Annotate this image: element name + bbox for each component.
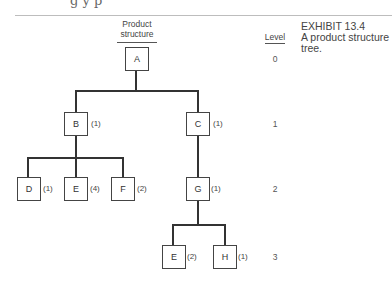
connector-to-e2 [172,224,174,245]
node-g: G [186,177,210,201]
connector-g-horizontal [172,224,226,226]
node-e-level3: E [162,245,186,269]
exhibit-caption-line2: tree. [301,43,322,54]
node-a: A [125,47,149,71]
connector-to-d [27,157,29,177]
connector-g-stem [197,201,199,225]
connector-to-b [75,90,77,112]
node-c-quantity: (1) [213,119,223,129]
connector-to-c [197,90,199,112]
connector-a-horizontal [75,90,199,92]
node-e-level3-quantity: (2) [187,252,197,262]
top-rule-divider [15,15,392,16]
node-e-level2-quantity: (4) [90,184,100,194]
connector-to-f [122,157,124,177]
node-f: F [111,177,135,201]
connector-b-stem [75,136,77,158]
product-structure-header: Product structure [108,19,166,39]
connector-to-h [224,224,226,245]
level-header: Level [262,32,288,42]
cropped-text-fragment: g y p [70,0,102,8]
product-structure-header-line1: Product [108,19,166,29]
node-b: B [64,112,88,136]
level-label-2: 2 [265,184,285,194]
product-structure-header-line2: structure [108,29,166,39]
level-label-3: 3 [265,252,285,262]
level-label-0: 0 [265,54,285,64]
node-g-quantity: (1) [211,184,221,194]
connector-to-e1 [75,157,77,177]
node-f-quantity: (2) [137,184,147,194]
connector-a-stem [135,71,137,92]
node-c: C [186,112,210,136]
node-d: D [17,177,41,201]
node-d-quantity: (1) [43,184,53,194]
connector-c-to-g [197,136,199,177]
node-h: H [213,245,237,269]
node-e-level2: E [64,177,88,201]
product-structure-underline [117,42,157,43]
level-header-underline [265,43,285,44]
level-label-1: 1 [265,119,285,129]
node-b-quantity: (1) [91,119,101,129]
node-h-quantity: (1) [238,252,248,262]
